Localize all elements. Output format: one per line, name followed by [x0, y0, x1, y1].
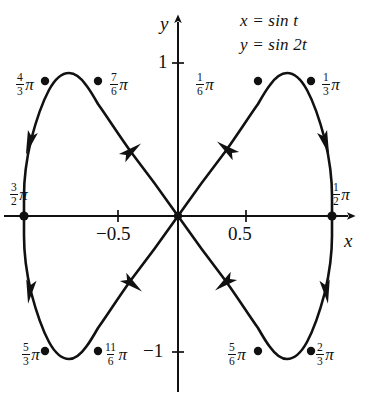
point-two-pi-over-3: [307, 347, 315, 355]
param-label-seven-pi-over-6: 7 6 π: [110, 72, 128, 98]
pi-symbol: π: [324, 346, 334, 363]
point-three-pi-over-2: [19, 211, 28, 220]
point-five-pi-over-3: [41, 347, 49, 355]
fraction-three-pi-over-2: 3 2: [10, 182, 18, 208]
point-pi-over-2: [327, 211, 336, 220]
point-seven-pi-over-6: [94, 77, 102, 85]
fraction-pi-over-6: 1 6: [196, 72, 204, 98]
point-pi-over-3: [307, 77, 315, 85]
fraction-two-pi-over-3: 2 3: [316, 342, 324, 368]
pi-symbol: π: [18, 186, 28, 203]
param-label-five-pi-over-6: 5 6 π: [228, 342, 246, 368]
param-label-four-pi-over-3: 4 3 π: [16, 72, 34, 98]
x-tick-label-plus-half: 0.5: [228, 224, 252, 243]
tick-marks: [118, 63, 246, 352]
pi-symbol: π: [340, 186, 350, 203]
direction-arrow-down-right-1: [317, 130, 334, 156]
direction-arrow-up-left-2: [119, 139, 144, 162]
equation-x-annotation: x = sin t: [240, 12, 298, 29]
point-origin: [174, 212, 182, 220]
pi-symbol: π: [204, 76, 214, 93]
fraction-eleven-pi-over-6: 11 6: [104, 342, 117, 368]
fraction-five-pi-over-6: 5 6: [228, 342, 236, 368]
fraction-four-pi-over-3: 4 3: [16, 72, 24, 98]
y-tick-label-minus-one: −1: [143, 341, 163, 360]
pi-symbol: π: [236, 346, 246, 363]
param-label-pi-over-6: 1 6 π: [196, 72, 214, 98]
pi-symbol: π: [24, 76, 34, 93]
param-label-five-pi-over-3: 5 3 π: [22, 342, 40, 368]
pi-symbol: π: [330, 76, 340, 93]
parametric-plot-figure: x = sin t y = sin 2t y x 1 −1 −0.5 0.5 1…: [0, 0, 367, 397]
fraction-pi-over-3: 1 3: [322, 72, 330, 98]
param-label-pi-over-3: 1 3 π: [322, 72, 340, 98]
pi-symbol: π: [30, 346, 40, 363]
equation-x-text: x = sin t: [240, 11, 298, 30]
param-label-three-pi-over-2: 3 2 π: [10, 182, 28, 208]
param-label-pi-over-2: 1 2 π: [332, 182, 350, 208]
equation-y-text: y = sin 2t: [240, 35, 307, 54]
pi-symbol: π: [117, 346, 127, 363]
param-label-two-pi-over-3: 2 3 π: [316, 342, 334, 368]
fraction-seven-pi-over-6: 7 6: [110, 72, 118, 98]
fraction-five-pi-over-3: 5 3: [22, 342, 30, 368]
point-four-pi-over-3: [41, 77, 49, 85]
fraction-pi-over-2: 1 2: [332, 182, 340, 208]
equation-y-annotation: y = sin 2t: [240, 36, 307, 53]
param-label-eleven-pi-over-6: 11 6 π: [104, 342, 127, 368]
point-five-pi-over-6: [254, 347, 262, 355]
y-tick-label-one: 1: [158, 52, 168, 71]
plot-canvas: [0, 0, 367, 397]
x-tick-label-minus-half: −0.5: [96, 224, 130, 243]
direction-arrow-up-right-1: [214, 137, 239, 160]
y-axis-label: y: [160, 14, 168, 33]
x-axis-label: x: [344, 231, 352, 250]
pi-symbol: π: [118, 76, 128, 93]
point-eleven-pi-over-6: [94, 347, 102, 355]
point-pi-over-6: [254, 77, 262, 85]
